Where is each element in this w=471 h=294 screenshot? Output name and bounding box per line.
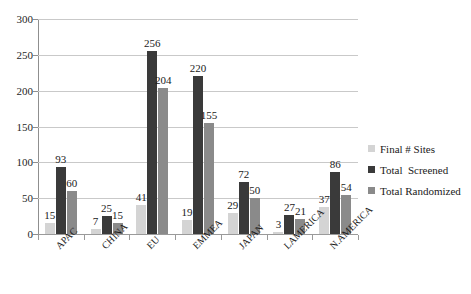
legend-item-label: Total Screened — [380, 164, 448, 176]
legend-item-total-screened: Total Screened — [368, 159, 471, 180]
bar-value-label: 220 — [185, 63, 211, 74]
y-axis-tick-label: 200 — [0, 86, 33, 97]
bar — [273, 232, 283, 234]
bar-value-label: 204 — [150, 75, 176, 86]
gridline — [38, 55, 358, 56]
x-axis-category-label: EU — [145, 235, 162, 252]
legend-item-label: Total Randomized — [380, 185, 461, 197]
gridline — [38, 19, 358, 20]
legend-item-label: Final # Sites — [380, 143, 435, 155]
chart-legend: Final # Sites Total Screened Total Rando… — [368, 138, 471, 201]
bar-value-label: 72 — [231, 169, 257, 180]
legend-swatch-icon — [368, 166, 375, 173]
x-axis-tick-mark — [38, 235, 39, 240]
bar-value-label: 60 — [59, 178, 85, 189]
bar — [136, 205, 146, 234]
x-axis-tick-mark — [84, 235, 85, 240]
bar — [228, 213, 238, 234]
x-axis-tick-mark — [221, 235, 222, 240]
y-axis-tick-label: 100 — [0, 157, 33, 168]
bar-chart: 050100150200250300 159360725154125620419… — [0, 0, 471, 294]
bar — [158, 88, 168, 234]
bar-value-label: 15 — [105, 210, 131, 221]
bar-value-label: 54 — [333, 182, 359, 193]
bar — [91, 229, 101, 234]
bar-value-label: 256 — [139, 38, 165, 49]
bar-value-label: 86 — [322, 159, 348, 170]
y-axis-tick-label: 50 — [0, 193, 33, 204]
x-axis-tick-mark — [267, 235, 268, 240]
y-axis-tick-label: 150 — [0, 122, 33, 133]
bar-value-label: 93 — [48, 154, 74, 165]
x-axis-tick-mark — [129, 235, 130, 240]
x-axis-tick-mark — [312, 235, 313, 240]
x-axis-tick-mark — [175, 235, 176, 240]
y-axis-tick-label: 0 — [0, 229, 33, 240]
bar-value-label: 155 — [196, 110, 222, 121]
bar — [45, 223, 55, 234]
bar-value-label: 50 — [242, 185, 268, 196]
x-axis-tick-mark — [358, 235, 359, 240]
y-axis-tick-label: 300 — [0, 14, 33, 25]
y-axis-tick-label: 250 — [0, 50, 33, 61]
bar — [204, 123, 214, 234]
bar — [193, 76, 203, 234]
plot-area: 1593607251541256204192201552972503272137… — [38, 19, 358, 234]
legend-item-total-randomized: Total Randomized — [368, 180, 471, 201]
legend-swatch-icon — [368, 145, 375, 152]
legend-item-final-sites: Final # Sites — [368, 138, 471, 159]
legend-swatch-icon — [368, 187, 375, 194]
bar — [182, 220, 192, 234]
